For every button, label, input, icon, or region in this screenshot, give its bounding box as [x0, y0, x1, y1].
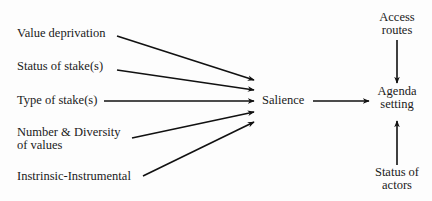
- node-status-of-actors: Status of actors: [362, 166, 432, 192]
- input-status-of-stakes: Status of stake(s): [17, 60, 103, 73]
- input-number-diversity: Number & Diversity of values: [17, 126, 120, 152]
- node-access-routes-line2: routes: [367, 24, 427, 37]
- salience-agenda-diagram: Value deprivation Status of stake(s) Typ…: [0, 0, 432, 201]
- input-type-of-stakes: Type of stake(s): [17, 94, 97, 107]
- node-agenda-setting-line2: setting: [367, 98, 427, 111]
- node-status-of-actors-line2: actors: [362, 179, 432, 192]
- input-number-diversity-line2: of values: [17, 139, 120, 152]
- input-intrinsic-instrumental: Instrinsic-Instrumental: [17, 170, 131, 183]
- node-access-routes: Access routes: [367, 11, 427, 37]
- arrow-number-diversity-to-salience: [132, 112, 254, 138]
- arrow-intrinsic-instrumental-to-salience: [143, 122, 254, 176]
- node-salience: Salience: [262, 94, 304, 107]
- node-agenda-setting: Agenda setting: [367, 85, 427, 111]
- input-value-deprivation: Value deprivation: [17, 27, 106, 40]
